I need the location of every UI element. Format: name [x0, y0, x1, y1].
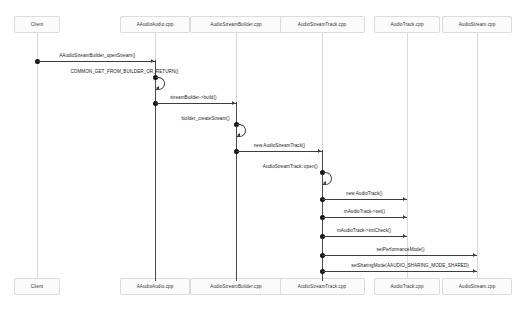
- message-arrow-6: [322, 199, 407, 200]
- arrow-head-6: [403, 197, 406, 201]
- header-box-track: AudioStreamTrack.cpp: [280, 16, 365, 33]
- footer-box-client: Client: [14, 278, 60, 295]
- arrow-head-5: [323, 181, 326, 185]
- footer-label-track: AudioStreamTrack.cpp: [298, 284, 347, 289]
- message-label-2: streamBuilder->build(): [170, 95, 216, 100]
- header-box-stream: AudioStream.cpp: [442, 16, 511, 33]
- message-label-8: mAudioTrack->initCheck(): [337, 228, 391, 233]
- message-arrow-4: [236, 151, 322, 152]
- message-arrow-7: [322, 217, 407, 218]
- arrow-head-1: [156, 86, 159, 90]
- arrow-head-0: [151, 59, 154, 63]
- arrow-head-4: [318, 149, 321, 153]
- message-arrow-2: [155, 103, 236, 104]
- footer-box-atrack: AudioTrack.cpp: [374, 278, 440, 295]
- message-arrow-9: [322, 255, 477, 256]
- message-label-5: AudioStreamTrack::open(): [263, 164, 318, 169]
- message-label-6: new AudioTrack(): [346, 191, 382, 196]
- message-label-0: AAudioStreamBuilder_openStream(): [59, 53, 135, 58]
- header-box-atrack: AudioTrack.cpp: [374, 16, 440, 33]
- header-box-client: Client: [14, 16, 60, 33]
- message-label-1: COMMON_GET_FROM_BUILDER_OR_RETURN(): [71, 69, 179, 74]
- message-arrow-0: [37, 61, 155, 62]
- lifeline-atrack: [407, 33, 408, 278]
- header-box-builder: AudioStreamBuilder.cpp: [190, 16, 281, 33]
- footer-box-stream: AudioStream.cpp: [442, 278, 511, 295]
- message-arrow-8: [322, 236, 407, 237]
- header-label-builder: AudioStreamBuilder.cpp: [210, 22, 261, 27]
- arrow-head-8: [403, 234, 406, 238]
- activation-bar-aaudio: [155, 60, 156, 281]
- footer-label-atrack: AudioTrack.cpp: [390, 284, 423, 289]
- arrow-head-7: [403, 215, 406, 219]
- header-label-stream: AudioStream.cpp: [459, 22, 496, 27]
- arrow-head-3: [237, 133, 240, 137]
- header-box-aaudio: AAudioAudio.cpp: [120, 16, 189, 33]
- arrow-head-10: [473, 269, 476, 273]
- arrow-head-2: [232, 101, 235, 105]
- footer-label-builder: AudioStreamBuilder.cpp: [210, 284, 261, 289]
- lifeline-stream: [477, 33, 478, 278]
- header-label-atrack: AudioTrack.cpp: [390, 22, 423, 27]
- sequence-diagram-canvas: ClientClientAAudioAudio.cppAAudioAudio.c…: [0, 0, 515, 313]
- message-label-9: setPerformanceMode(): [377, 247, 425, 252]
- lifeline-client: [37, 33, 38, 278]
- header-label-aaudio: AAudioAudio.cpp: [137, 22, 174, 27]
- footer-label-aaudio: AAudioAudio.cpp: [137, 284, 174, 289]
- footer-label-stream: AudioStream.cpp: [459, 284, 496, 289]
- arrow-head-9: [473, 253, 476, 257]
- message-label-7: mAudioTrack->set(): [344, 209, 385, 214]
- header-label-track: AudioStreamTrack.cpp: [298, 22, 347, 27]
- message-label-4: new AudioStreamTrack(): [254, 143, 305, 148]
- message-label-3: builder_createStream(): [181, 116, 229, 121]
- message-arrow-10: [322, 271, 477, 272]
- footer-label-client: Client: [31, 284, 43, 289]
- header-label-client: Client: [31, 22, 43, 27]
- message-label-10: setSharingMode(AAUDIO_SHARING_MODE_SHARE…: [351, 263, 469, 268]
